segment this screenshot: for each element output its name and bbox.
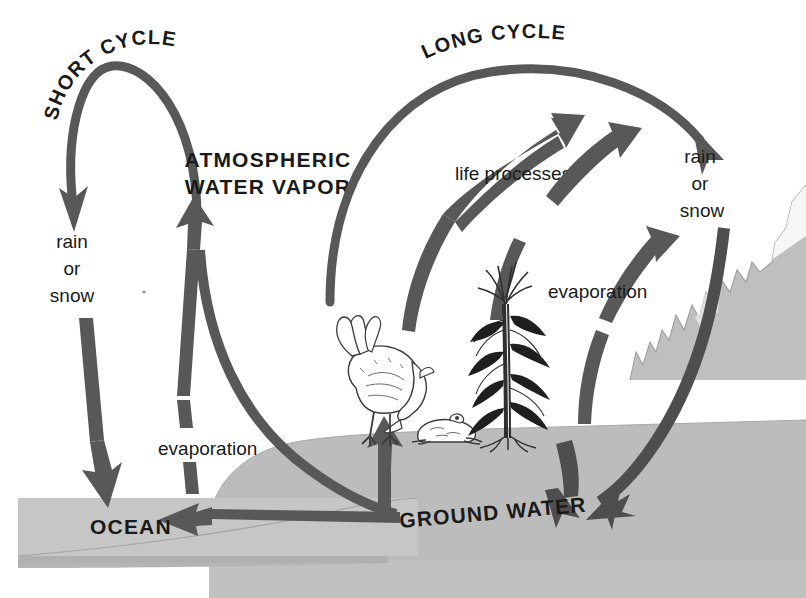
- rain-left-line1: rain: [56, 231, 88, 252]
- water-cycle-diagram: SHORT CYCLE rain or snow evaporation ATM…: [0, 0, 806, 598]
- atmospheric-label-line1: ATMOSPHERIC: [185, 148, 352, 171]
- rain-right-line2: or: [692, 173, 710, 194]
- life-processes-label: life processes: [455, 163, 571, 184]
- ocean-label: OCEAN: [90, 515, 172, 538]
- evaporation-right-label: evaporation: [548, 281, 647, 302]
- rain-left-line2: or: [64, 258, 82, 279]
- diagram-canvas: SHORT CYCLE rain or snow evaporation ATM…: [0, 0, 806, 598]
- ocean-body: [18, 498, 418, 568]
- evaporation-left-label: evaporation: [158, 438, 257, 459]
- scan-speck: [142, 290, 145, 293]
- rain-right-line1: rain: [684, 146, 716, 167]
- atmospheric-label-line2: WATER VAPOR: [185, 175, 351, 198]
- rain-right-line3: snow: [680, 200, 725, 221]
- rain-left-line3: snow: [50, 285, 95, 306]
